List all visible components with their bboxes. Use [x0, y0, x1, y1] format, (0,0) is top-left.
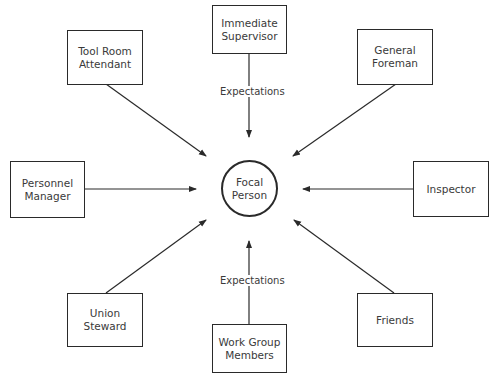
node-personnel-manager: PersonnelManager — [10, 161, 85, 218]
edge-union-steward — [106, 220, 206, 293]
node-general-foreman: GeneralForeman — [357, 29, 433, 85]
node-label: Union — [90, 307, 120, 319]
node-label: General — [374, 44, 415, 56]
edge-general-foreman — [293, 84, 396, 156]
edge-friends — [294, 220, 394, 293]
focal-label: Focal — [236, 176, 263, 188]
node-work-group-members: Work GroupMembers — [212, 324, 287, 373]
node-label: Friends — [376, 314, 414, 326]
edge-label-top: Expectations — [219, 86, 286, 97]
node-label: Personnel — [22, 177, 73, 189]
node-immediate-supervisor: ImmediateSupervisor — [212, 5, 287, 54]
node-label: Supervisor — [221, 30, 277, 42]
focal-label: Person — [232, 189, 267, 201]
node-friends: Friends — [357, 293, 433, 347]
node-label: Foreman — [372, 57, 418, 69]
node-label: Manager — [24, 190, 70, 202]
node-label: Tool Room — [78, 45, 132, 57]
node-label: Immediate — [221, 17, 278, 29]
node-label: Members — [225, 349, 274, 361]
focal-person-circle: FocalPerson — [221, 160, 278, 217]
node-tool-room-attendant: Tool RoomAttendant — [67, 30, 143, 85]
edge-label-bottom: Expectations — [219, 275, 286, 286]
node-inspector: Inspector — [413, 161, 489, 217]
node-label: Inspector — [427, 183, 476, 195]
edge-tool-room — [106, 84, 206, 156]
node-union-steward: UnionSteward — [67, 293, 143, 347]
node-label: Attendant — [79, 58, 131, 70]
node-label: Steward — [83, 320, 126, 332]
node-label: Work Group — [219, 336, 281, 348]
